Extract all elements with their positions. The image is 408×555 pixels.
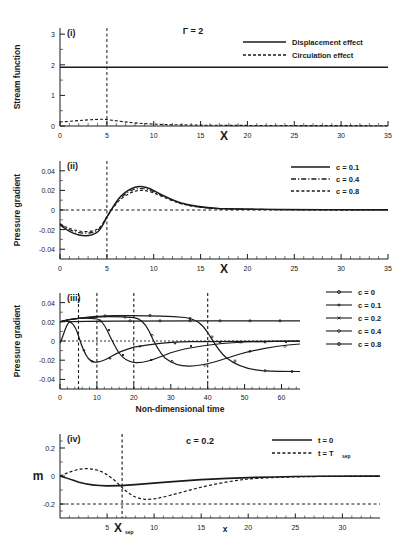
ytick: 0	[51, 123, 55, 130]
xtick: 35	[384, 265, 392, 272]
marker-c02-cross	[88, 317, 287, 361]
panel-ii-plot: -0.04 -0.02 0 0.02 0.04 0 5 10 15 20 25 …	[0, 147, 408, 282]
panel-iii-plot: -0.04 -0.02 0 0.02 0.04 0 10 20 30 40 50…	[0, 281, 408, 417]
xtick: 15	[197, 265, 205, 272]
panel-iii-ylabel: Pressure gradient	[12, 305, 22, 377]
ytick: 0.02	[41, 187, 55, 194]
xtick: 5	[105, 265, 109, 272]
panel-iv-xlabel: x	[223, 524, 228, 534]
xtick: 0	[58, 132, 62, 139]
xtick: 35	[384, 132, 392, 139]
xsep-label: X	[114, 521, 122, 535]
panel-iv-series-t0	[60, 476, 380, 486]
panel-ii: -0.04 -0.02 0 0.02 0.04 0 5 10 15 20 25 …	[0, 147, 408, 282]
panel-iii: -0.04 -0.02 0 0.02 0.04 0 10 20 30 40 50…	[0, 281, 408, 417]
xtick: 0	[58, 394, 62, 401]
xtick: 40	[204, 394, 212, 401]
panel-iii-xlabel: Non-dimensional time	[136, 404, 225, 414]
legend-label-c08: c = 0.8	[336, 187, 359, 196]
panel-i-xlabel: X	[220, 129, 228, 143]
ytick: -0.02	[39, 357, 55, 364]
xtick: 20	[244, 524, 252, 531]
legend-label-tsep-subscript: sep	[342, 453, 351, 459]
panel-i-series-circulation	[60, 119, 388, 125]
ytick: 0.04	[41, 300, 55, 307]
panel-iv-ylabel: m	[33, 469, 44, 483]
legend-label-c0: c = 0	[358, 288, 375, 297]
panel-i-ylabel: Stream function	[12, 45, 22, 110]
panel-iii-markers	[83, 314, 293, 372]
panel-iii-series-c08	[60, 316, 300, 372]
xtick: 30	[337, 132, 345, 139]
legend-label-c04: c = 0.4	[358, 327, 382, 336]
xtick: 60	[278, 394, 286, 401]
panel-iii-series-c02	[60, 318, 300, 363]
xtick: 30	[339, 524, 347, 531]
ytick: 0.02	[41, 319, 55, 326]
panel-iii-label: (iii)	[67, 293, 81, 303]
panel-iv-xsep-annotation: X sep	[114, 521, 134, 535]
panel-ii-legend: c = 0.1 c = 0.4 c = 0.8	[291, 163, 360, 196]
panel-i-label: (i)	[67, 28, 76, 38]
xtick: 0	[58, 265, 62, 272]
xtick: 5	[105, 132, 109, 139]
panel-iii-series-c0	[60, 321, 300, 343]
ytick: 1	[51, 92, 55, 99]
xtick: 50	[241, 394, 249, 401]
ytick: 3	[51, 31, 55, 38]
legend-label-c04: c = 0.4	[336, 175, 360, 184]
xtick: 10	[93, 394, 101, 401]
panel-iii-tick-labels: -0.04 -0.02 0 0.02 0.04 0 10 20 30 40 50…	[39, 300, 285, 401]
legend-label-c08: c = 0.8	[358, 340, 381, 349]
xtick: 10	[150, 132, 158, 139]
panel-iv-title: c = 0.2	[186, 436, 214, 446]
xtick: 10	[150, 524, 158, 531]
xtick: 30	[337, 265, 345, 272]
legend-label-displacement: Displacement effect	[292, 38, 363, 47]
xtick: 15	[197, 132, 205, 139]
legend-label-c02: c = 0.2	[358, 314, 381, 323]
panel-i-plot: 0 1 2 3 0 5 10 15 20 25 30 35 Stream fun…	[0, 8, 408, 148]
xtick: 20	[130, 394, 138, 401]
ytick: -0.04	[39, 376, 55, 383]
panel-i: 0 1 2 3 0 5 10 15 20 25 30 35 Stream fun…	[0, 8, 408, 148]
xsep-subscript: sep	[125, 529, 134, 535]
ytick: 2	[51, 62, 55, 69]
xtick: 25	[290, 132, 298, 139]
xtick: 25	[291, 524, 299, 531]
legend-label-tsep: t = T	[318, 449, 334, 458]
ytick: 0	[51, 338, 55, 345]
panel-iii-legend: c = 0 c = 0.1 c = 0.2 c = 0.4 c = 0.8	[326, 288, 382, 349]
legend-marker-c01	[338, 304, 341, 307]
panel-ii-series-c08	[60, 190, 388, 231]
panel-iv: -0.2 0 0.2 5 10 15 20 25 30 m x (iv) c =…	[0, 418, 408, 555]
xtick: 10	[150, 265, 158, 272]
panel-iv-legend: t = 0 t = T sep	[272, 436, 351, 459]
ytick: -0.02	[39, 227, 55, 234]
xtick: 20	[244, 265, 252, 272]
legend-label-c01: c = 0.1	[358, 301, 381, 310]
legend-label-t0: t = 0	[318, 436, 333, 445]
legend-label-circulation: Circulation effect	[292, 51, 354, 60]
ytick: 0	[51, 473, 55, 480]
xtick: 5	[105, 524, 109, 531]
panel-ii-label: (ii)	[67, 161, 78, 171]
xtick: 20	[244, 132, 252, 139]
ytick: -0.04	[39, 246, 55, 253]
panel-iv-plot: -0.2 0 0.2 5 10 15 20 25 30 m x (iv) c =…	[0, 418, 408, 555]
panel-ii-ylabel: Pressure gradient	[12, 174, 22, 246]
ytick: 0.04	[41, 168, 55, 175]
panel-iv-series-tsep	[60, 469, 380, 500]
panel-i-title: Γ = 2	[183, 26, 204, 36]
ytick: -0.2	[43, 501, 55, 508]
xtick: 30	[167, 394, 175, 401]
panel-iv-label: (iv)	[67, 434, 81, 444]
legend-label-c01: c = 0.1	[336, 163, 359, 172]
xtick: 15	[197, 524, 205, 531]
panel-ii-xlabel: X	[220, 262, 228, 276]
panel-i-legend: Displacement effect Circulation effect	[243, 38, 363, 60]
ytick: 0	[51, 207, 55, 214]
legend-label-tsep-group: t = T sep	[318, 449, 351, 459]
ytick: 0.2	[45, 445, 55, 452]
xtick: 25	[290, 265, 298, 272]
